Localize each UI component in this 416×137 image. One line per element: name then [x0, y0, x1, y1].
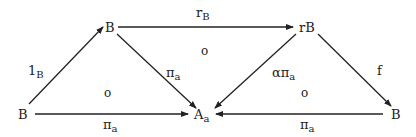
node-B-left: B [18, 108, 28, 121]
edge-label-pi-a-diag: πa [166, 66, 181, 83]
edge-label-1B: 1B [28, 64, 44, 81]
edge-label-rB: rB [196, 6, 210, 23]
node-B-top: B [105, 21, 115, 34]
edge-subscript: a [309, 123, 315, 134]
cell-mark-right: o [301, 87, 308, 99]
edge-label-pi-a-bottom-left: πa [103, 118, 118, 135]
node-label: B [391, 107, 401, 122]
cell-mark-middle: o [201, 45, 208, 57]
node-rB: rB [299, 21, 315, 34]
edge-label-f: f [377, 64, 382, 77]
edge-label-pi-a-bottom-right: πa [300, 118, 315, 135]
edge-subscript: B [36, 69, 43, 80]
edge-subscript: a [112, 123, 118, 134]
cell-mark-left: o [104, 87, 111, 99]
edge-label: f [377, 63, 382, 78]
node-B-right: B [391, 108, 401, 121]
node-subscript: a [203, 113, 209, 124]
node-label: rB [299, 20, 315, 35]
edge-subscript: a [289, 71, 295, 82]
edge-label: π [166, 65, 175, 80]
edge-label-alpha-pi-a: απa [272, 66, 295, 83]
edge-label: απ [272, 65, 289, 80]
edge-label: π [300, 117, 309, 132]
node-A-a: Aa [194, 108, 209, 125]
edge-label: π [103, 117, 112, 132]
edge-subscript: B [202, 11, 209, 22]
edge-subscript: a [175, 71, 181, 82]
arrow-pi-a-diag [117, 34, 196, 108]
node-label: A [194, 107, 203, 122]
node-label: B [18, 107, 28, 122]
node-label: B [105, 20, 115, 35]
